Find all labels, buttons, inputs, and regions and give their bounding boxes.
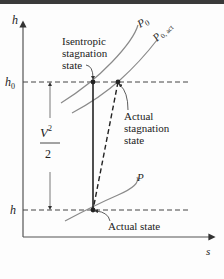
actual-state-annotation: Actual state: [96, 211, 160, 232]
h-axis-label: h: [12, 13, 18, 27]
actual-stagnation-annotation: Actual stagnation state: [120, 85, 170, 146]
svg-text:2: 2: [45, 147, 51, 161]
isobar-p: [65, 177, 138, 221]
actual-stagnation-point: [116, 80, 121, 85]
h-label: h: [10, 203, 16, 217]
svg-text:Actual state: Actual state: [108, 220, 160, 232]
actual-process-line: [93, 82, 118, 210]
isobar-p-label: P: [136, 171, 144, 183]
svg-text:Actual: Actual: [124, 110, 153, 122]
hs-diagram: h s h0 h P0 P0, act P V2: [0, 0, 224, 279]
svg-text:stagnation: stagnation: [62, 47, 108, 59]
isobar-p0act-label: P0, act: [149, 19, 175, 45]
diagram-canvas: h s h0 h P0 P0, act P V2: [0, 0, 224, 279]
s-axis-label: s: [206, 245, 210, 257]
isentropic-stagnation-annotation: Isentropic stagnation state: [62, 35, 108, 78]
svg-text:state: state: [62, 59, 82, 71]
h0-label: h0: [5, 75, 15, 91]
actual-state-point: [91, 208, 96, 213]
svg-text:V2: V2: [40, 124, 52, 140]
svg-text:P0, act: P0, act: [149, 19, 175, 45]
svg-text:state: state: [124, 134, 144, 146]
svg-text:Isentropic: Isentropic: [62, 35, 106, 47]
kinetic-energy-label: V2 2: [40, 124, 60, 161]
svg-text:stagnation: stagnation: [124, 122, 170, 134]
isentropic-stagnation-point: [91, 80, 96, 85]
